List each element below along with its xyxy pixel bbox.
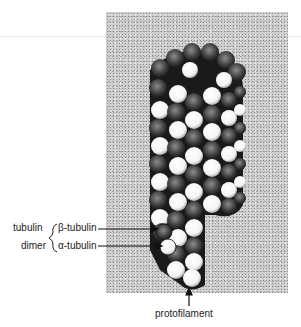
alpha-tubulin-label: α-tubulin <box>58 240 97 252</box>
tubulin-label: tubulin <box>13 222 42 234</box>
beta-tubulin-label: β-tubulin <box>58 222 97 234</box>
dimer-brace <box>49 224 57 252</box>
microtubule-body <box>149 43 246 289</box>
protofilament-label: protofilament <box>155 308 213 320</box>
dimer-label: dimer <box>21 240 46 252</box>
microtubule-illustration <box>0 0 301 327</box>
